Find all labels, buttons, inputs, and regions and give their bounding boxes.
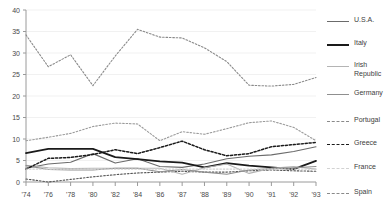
legend-label: Spain — [349, 188, 372, 197]
legend-item[interactable]: France — [327, 163, 376, 175]
legend-swatch-icon — [327, 116, 349, 127]
legend-swatch-icon — [327, 89, 349, 100]
series-line — [26, 29, 316, 86]
y-tick-label: 0 — [16, 179, 20, 186]
x-tick-label: '82 — [111, 191, 120, 198]
legend-item[interactable]: Spain — [327, 188, 372, 200]
x-tick-label: '74 — [21, 191, 30, 198]
legend-label: Italy — [349, 39, 367, 48]
legend-swatch-icon — [327, 61, 349, 72]
y-tick-label: 15 — [12, 114, 20, 121]
x-tick-label: '76 — [44, 191, 53, 198]
legend-swatch-icon — [327, 188, 349, 199]
y-tick-label: 5 — [16, 157, 20, 164]
legend-item[interactable]: Greece — [327, 139, 377, 151]
y-tick-label: 20 — [12, 93, 20, 100]
y-axis: 0510152025303540 — [12, 7, 26, 186]
x-tick-label: '89 — [222, 191, 231, 198]
line-chart: 0510152025303540'74'76'78'80'82'84'86'87… — [0, 0, 322, 216]
series-group — [26, 29, 316, 174]
x-tick-label: '90 — [245, 191, 254, 198]
x-tick-label: '84 — [133, 191, 142, 198]
legend-swatch-icon — [327, 163, 349, 174]
x-tick-label: '80 — [88, 191, 97, 198]
gridlines — [26, 10, 316, 161]
y-tick-label: 10 — [12, 136, 20, 143]
x-tick-label: '86 — [155, 191, 164, 198]
x-tick-label: '92 — [289, 191, 298, 198]
legend-label: Irish Republic — [349, 61, 381, 78]
y-tick-label: 25 — [12, 71, 20, 78]
legend-swatch-icon — [327, 39, 349, 50]
series-line — [26, 149, 316, 169]
legend-item[interactable]: Italy — [327, 39, 367, 51]
legend-label: U.S.A. — [349, 16, 374, 25]
x-tick-label: '93 — [311, 191, 320, 198]
chart-plot-area: 0510152025303540'74'76'78'80'82'84'86'87… — [0, 0, 322, 216]
legend-swatch-icon — [327, 16, 349, 27]
legend-label: Germany — [349, 89, 383, 98]
legend-label: France — [349, 163, 376, 172]
x-tick-label: '88 — [200, 191, 209, 198]
legend-item[interactable]: Germany — [327, 89, 383, 101]
chart-legend: U.S.A.ItalyIrish RepublicGermanyPortugal… — [327, 8, 387, 213]
legend-swatch-icon — [327, 139, 349, 150]
legend-item[interactable]: Portugal — [327, 116, 380, 128]
legend-label: Portugal — [349, 116, 380, 125]
legend-item[interactable]: Irish Republic — [327, 61, 381, 73]
legend-label: Greece — [349, 139, 377, 148]
y-tick-label: 30 — [12, 50, 20, 57]
series-line — [26, 121, 316, 141]
x-tick-label: '87 — [178, 191, 187, 198]
y-tick-label: 40 — [12, 7, 20, 14]
chart-screenshot: 0510152025303540'74'76'78'80'82'84'86'87… — [0, 0, 387, 216]
x-axis: '74'76'78'80'82'84'86'87'88'89'90'91'92'… — [21, 182, 320, 198]
y-tick-label: 35 — [12, 28, 20, 35]
x-tick-label: '91 — [267, 191, 276, 198]
x-tick-label: '78 — [66, 191, 75, 198]
legend-item[interactable]: U.S.A. — [327, 16, 374, 28]
